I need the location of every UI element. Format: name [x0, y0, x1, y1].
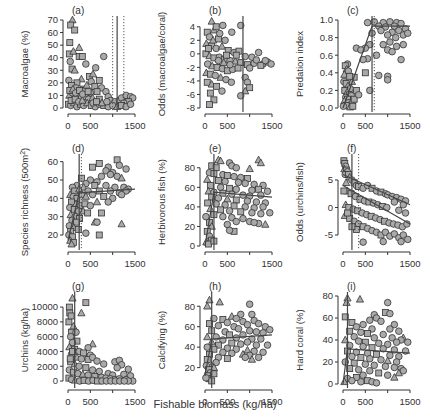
y-axis-title: Odds (macroalgae/coral) [156, 12, 167, 117]
y-axis-title: Herbivorous fish (%) [156, 159, 167, 245]
x-tick-label: 1500 [261, 120, 282, 131]
panel-label: (c) [347, 5, 359, 16]
scatter-panel-g: (g)020004000600080001000005001500Urchins… [19, 281, 146, 407]
y-tick-label: 40 [184, 341, 195, 352]
y-axis-title: Urchins (kg/ha) [19, 308, 30, 372]
panel-label: (d) [72, 143, 84, 154]
y-tick-label: 20 [184, 221, 195, 232]
y-tick-label: 0.6 [320, 50, 333, 61]
data-points [341, 294, 411, 386]
fit-line [343, 175, 410, 205]
x-tick-label: 0 [65, 258, 70, 269]
y-tick-label: 60 [47, 156, 58, 167]
y-tick-label: -6 [187, 89, 195, 100]
panel-label: (e) [209, 143, 221, 154]
y-tick-label: 5 [328, 174, 333, 185]
panel-label: (a) [72, 5, 84, 16]
y-tick-label: 4 [190, 21, 195, 32]
y-tick-label: 20 [47, 77, 58, 88]
scatter-panel-b: (b)-8-6-4-202405001500Odds (macroalgae/c… [156, 5, 283, 131]
y-tick-label: 50 [47, 174, 58, 185]
shared-x-axis-label: Fishable biomass (kg/ha) [0, 398, 430, 410]
y-tick-label: 60 [322, 312, 333, 323]
x-tick-label: 0 [65, 120, 70, 131]
x-tick-label: 1500 [124, 258, 145, 269]
y-tick-label: 40 [184, 201, 195, 212]
y-tick-label: -4 [187, 75, 195, 86]
y-tick-label: 1.0 [320, 14, 333, 25]
y-tick-label: -8 [187, 102, 195, 113]
scatter-panel-i: (i)02040608005001500Hard coral (%) [294, 281, 421, 407]
y-tick-label: 60 [184, 182, 195, 193]
y-tick-label: 0 [53, 102, 58, 113]
x-tick-label: 0 [340, 120, 345, 131]
panel-label: (f) [347, 143, 356, 154]
y-tick-label: 4000 [37, 346, 58, 357]
y-tick-label: 40 [47, 52, 58, 63]
y-tick-label: 0 [53, 375, 58, 386]
scatter-panel-c: (c)0.00.20.40.60.81.005001500Predation i… [294, 5, 421, 131]
x-tick-label: 500 [219, 258, 235, 269]
panel-label: (b) [209, 5, 221, 16]
y-tick-label: 80 [184, 162, 195, 173]
y-tick-label: 2000 [37, 361, 58, 372]
panel-label: (h) [209, 281, 221, 292]
data-points [203, 156, 273, 247]
x-tick-label: 0 [202, 258, 207, 269]
y-tick-label: 40 [322, 334, 333, 345]
x-tick-label: 1500 [261, 258, 282, 269]
data-points [203, 296, 273, 384]
y-tick-label: 40 [47, 193, 58, 204]
y-tick-label: -2 [187, 62, 195, 73]
y-axis-title: Calcifying (%) [156, 311, 167, 370]
x-tick-label: 1500 [399, 258, 420, 269]
y-tick-label: 30 [47, 65, 58, 76]
scatter-panel-d: (d)203040506005001500Species richness (5… [19, 143, 146, 269]
y-tick-label: 0.8 [320, 32, 333, 43]
y-tick-label: 20 [322, 356, 333, 367]
y-axis-title: Species richness (500m2) [19, 148, 31, 256]
y-tick-label: 0 [328, 202, 333, 213]
y-tick-label: 20 [47, 229, 58, 240]
y-tick-label: 0 [328, 378, 333, 389]
y-tick-label: 8000 [37, 316, 58, 327]
scatter-panel-a: (a)01020304050607005001500Macroalgae (%) [19, 5, 146, 131]
x-tick-label: 500 [82, 258, 98, 269]
data-points [66, 294, 136, 384]
data-points [340, 18, 411, 109]
y-axis-title: Predation index [294, 31, 305, 97]
y-axis-title: Odds (urchins/fish) [294, 162, 305, 242]
scatter-panel-e: (e)02040608005001500Herbivorous fish (%) [156, 143, 283, 269]
y-tick-label: 0 [190, 48, 195, 59]
x-tick-label: 500 [357, 120, 373, 131]
figure-3x3-scatter-grid: (a)01020304050607005001500Macroalgae (%)… [0, 0, 430, 417]
x-tick-label: 0 [202, 120, 207, 131]
y-tick-label: 0 [190, 240, 195, 251]
x-tick-label: 1500 [399, 120, 420, 131]
y-tick-label: 0.2 [320, 85, 333, 96]
data-points [66, 157, 132, 247]
y-tick-label: 50 [47, 39, 58, 50]
y-tick-label: 30 [47, 211, 58, 222]
y-tick-label: 20 [184, 362, 195, 373]
y-tick-label: 6000 [37, 331, 58, 342]
y-tick-label: 0.4 [320, 67, 333, 78]
panel-label: (i) [347, 281, 356, 292]
y-tick-label: 60 [47, 27, 58, 38]
data-points [65, 16, 136, 110]
y-tick-label: 2 [190, 35, 195, 46]
scatter-panel-f: (f)-50505001500Odds (urchins/fish) [294, 143, 421, 269]
y-axis-title: Hard coral (%) [294, 309, 305, 370]
y-tick-label: 80 [322, 290, 333, 301]
data-points [341, 158, 411, 246]
x-tick-label: 0 [340, 258, 345, 269]
y-tick-label: 60 [184, 321, 195, 332]
x-tick-label: 1500 [124, 120, 145, 131]
panel-label: (g) [72, 281, 84, 292]
x-tick-label: 500 [82, 120, 98, 131]
data-points [203, 18, 275, 108]
y-tick-label: 10 [47, 90, 58, 101]
y-tick-label: 70 [47, 14, 58, 25]
y-tick-label: 80 [184, 301, 195, 312]
y-tick-label: 0.0 [320, 102, 333, 113]
